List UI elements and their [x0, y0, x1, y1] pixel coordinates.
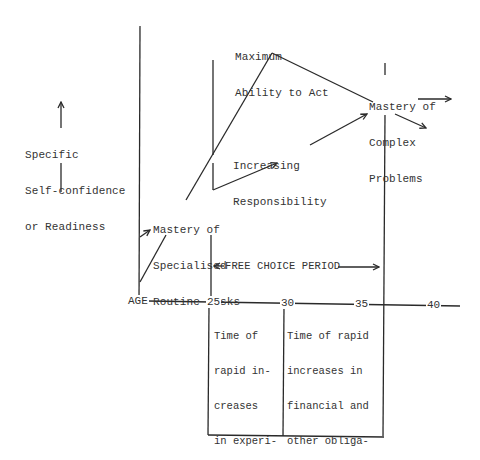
- node-label-line: Complex: [369, 137, 436, 149]
- free-choice-period-label: FREE CHOICE PERIOD: [225, 260, 340, 272]
- origin-vertical-line: [139, 26, 140, 306]
- arrow-to-routine-tasks: [140, 230, 150, 237]
- box-text-line: other obliga-: [287, 436, 382, 448]
- box-text-line: increases in: [287, 366, 382, 378]
- box-text-line: financial and: [287, 401, 382, 413]
- node-label-line: Maximum: [235, 51, 329, 63]
- box-text-line: Time of: [214, 331, 283, 343]
- node-increasing-responsibility: Increasing Responsibility: [233, 136, 327, 220]
- node-label-line: Routine Tasks: [153, 296, 240, 308]
- node-mastery-complex-problems: Mastery of Complex Problems: [369, 77, 436, 197]
- node-label-line: Mastery of: [369, 101, 436, 113]
- node-label-line: Increasing: [233, 160, 327, 172]
- node-label-line: Responsibility: [233, 196, 327, 208]
- age-tick-40: 40: [426, 299, 441, 311]
- box-text-line: rapid in-: [214, 366, 283, 378]
- box-text-line: creases: [214, 401, 283, 413]
- box-mid-career: Time of rapid increases in financial and…: [287, 308, 382, 460]
- y-axis-label-line: Self-confidence: [25, 185, 126, 197]
- box-text-line: in experi-: [214, 436, 283, 448]
- y-axis-label-line: Specific: [25, 149, 126, 161]
- age-tick-25: 25: [206, 296, 221, 308]
- box-left-edge: [208, 307, 209, 435]
- node-maximum-ability: Maximum Ability to Act: [235, 27, 329, 111]
- node-label-line: Mastery of: [153, 224, 240, 236]
- y-axis-label: Specific Self-confidence or Readiness: [25, 125, 126, 245]
- y-axis-label-line: or Readiness: [25, 221, 126, 233]
- node-label-line: Problems: [369, 173, 436, 185]
- box-early-career: Time of rapid in- creases in experi- enc…: [214, 308, 283, 460]
- node-label-line: Ability to Act: [235, 87, 329, 99]
- box-text-line: Time of rapid: [287, 331, 382, 343]
- age-axis-label: AGE: [127, 295, 149, 307]
